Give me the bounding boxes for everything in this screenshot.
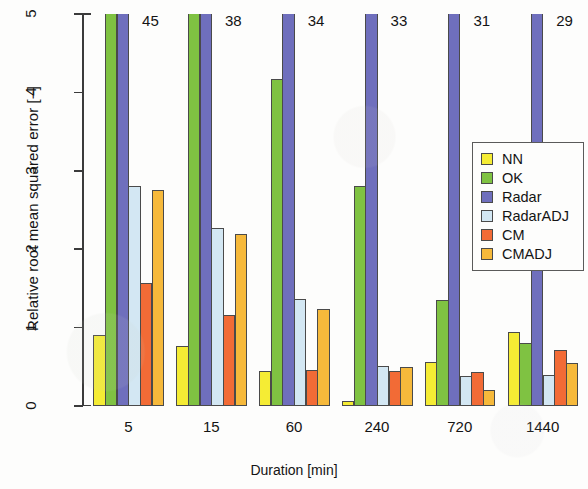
y-axis-tick (74, 92, 83, 94)
y-axis-tick-label: 0 (22, 376, 39, 436)
bar-radaradj-1440 (543, 375, 555, 406)
bar-nn-720 (425, 362, 437, 406)
legend-label: Radar (502, 189, 542, 205)
chart-figure: Relative root mean squared error [−] Dur… (0, 0, 588, 489)
bar-cmadj-1440 (566, 363, 578, 406)
legend-item-radar: Radar (481, 187, 577, 206)
y-axis-tick-label: 5 (22, 0, 39, 44)
clipped-value-label-5: 45 (142, 12, 159, 29)
bar-radar-15 (200, 14, 212, 406)
y-axis-tick (74, 248, 83, 250)
legend-item-cm: CM (481, 225, 577, 244)
y-axis-tick (74, 170, 83, 172)
bar-cmadj-240 (400, 367, 412, 406)
legend-item-nn: NN (481, 149, 577, 168)
clipped-value-label-15: 38 (225, 12, 242, 29)
y-axis-tick-label: 2 (22, 219, 39, 279)
bar-radaradj-240 (377, 366, 389, 406)
bar-cm-5 (140, 283, 152, 406)
clipped-value-label-60: 34 (308, 12, 325, 29)
legend-swatch-icon (481, 191, 493, 203)
bar-nn-60 (259, 371, 271, 406)
y-axis-tick-label: 4 (22, 62, 39, 122)
legend-swatch-icon (481, 229, 493, 241)
bar-cmadj-720 (483, 390, 495, 406)
y-axis-tick (74, 13, 83, 15)
bar-ok-1440 (519, 343, 531, 406)
bar-cm-15 (223, 315, 235, 406)
bar-radaradj-15 (211, 228, 223, 406)
bar-radar-240 (365, 14, 377, 406)
legend-item-radaradj: RadarADJ (481, 206, 577, 225)
legend-item-ok: OK (481, 168, 577, 187)
chart-legend: NNOKRadarRadarADJCMCMADJ (472, 142, 584, 271)
bar-cm-60 (306, 370, 318, 406)
bar-cm-720 (471, 372, 483, 406)
bar-radar-5 (117, 14, 129, 406)
legend-item-cmadj: CMADJ (481, 244, 577, 263)
bar-nn-240 (342, 401, 354, 406)
bar-ok-60 (271, 79, 283, 406)
bar-radaradj-720 (460, 376, 472, 406)
x-axis-label: Duration [min] (0, 462, 588, 478)
x-axis-tick-label: 5 (124, 418, 132, 435)
bar-nn-15 (176, 346, 188, 406)
legend-label: RadarADJ (502, 208, 569, 224)
bar-nn-1440 (508, 332, 520, 406)
clipped-value-label-240: 33 (391, 12, 408, 29)
legend-label: CM (502, 227, 525, 243)
legend-swatch-icon (481, 210, 493, 222)
bar-radar-60 (282, 14, 294, 406)
clipped-value-label-720: 31 (473, 12, 490, 29)
bar-cmadj-60 (317, 309, 329, 406)
clipped-value-label-1440: 29 (556, 12, 573, 29)
bar-radaradj-60 (294, 299, 306, 406)
legend-swatch-icon (481, 153, 493, 165)
bar-cm-1440 (554, 350, 566, 406)
bar-cm-240 (389, 371, 401, 406)
legend-label: OK (502, 170, 523, 186)
bar-radaradj-5 (128, 186, 140, 406)
y-axis-tick (74, 405, 83, 407)
y-axis-tick-label: 1 (22, 297, 39, 357)
legend-swatch-icon (481, 172, 493, 184)
y-axis-tick-label: 3 (22, 140, 39, 200)
legend-label: NN (502, 151, 523, 167)
bar-ok-5 (105, 14, 117, 406)
bar-cmadj-15 (235, 234, 247, 406)
bar-ok-720 (436, 300, 448, 406)
x-axis-tick-label: 60 (286, 418, 303, 435)
bar-ok-240 (354, 186, 366, 406)
x-axis-tick-label: 720 (447, 418, 472, 435)
bar-nn-5 (93, 335, 105, 406)
bar-cmadj-5 (152, 190, 164, 406)
x-axis-tick-label: 1440 (526, 418, 559, 435)
legend-label: CMADJ (502, 246, 552, 262)
bar-ok-15 (188, 14, 200, 406)
y-axis-tick (74, 327, 83, 329)
bar-radar-720 (448, 14, 460, 406)
x-axis-tick-label: 15 (203, 418, 220, 435)
x-axis-tick-label: 240 (364, 418, 389, 435)
legend-swatch-icon (481, 248, 493, 260)
